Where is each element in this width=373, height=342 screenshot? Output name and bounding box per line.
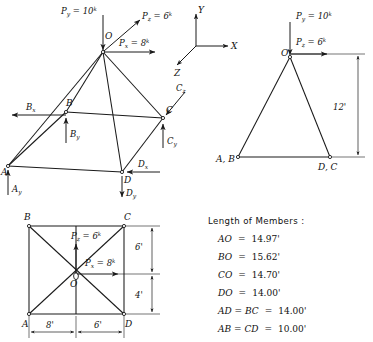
member-BC: [66, 112, 163, 118]
joint-label-A-plan: A: [21, 319, 29, 329]
plan-dim-label-8ft-horizontal: 8': [46, 320, 54, 330]
joint-D-plan: [122, 312, 125, 315]
elev-member-right: [290, 57, 330, 157]
load-label-Py-elev: Py = 10k: [295, 11, 332, 23]
plan-dim-label-6ft-horizontal: 6': [94, 320, 102, 330]
joint-label-B-plan: B: [23, 212, 31, 222]
iso-members: [8, 52, 163, 172]
joint-B-iso: [64, 110, 67, 113]
plan-view-group: B C A D O Pz = 6k Px = 8k 6' 4': [21, 212, 160, 338]
joint-label-D-plan: D: [124, 319, 132, 329]
coordinate-triad-group: Y X Z: [173, 5, 238, 78]
joint-A-plan: [27, 312, 30, 315]
axis-label-X: X: [230, 41, 238, 51]
legend-member-AD-BC: AD = BC: [217, 306, 259, 316]
elevation-view-group: O A, B D, C Py = 10k Pz = 6k 12': [215, 11, 365, 172]
joint-B-plan: [27, 224, 30, 227]
legend-row: BO=15.62': [217, 252, 280, 262]
joint-label-O-elev: O: [281, 48, 289, 58]
joint-C-plan: [122, 224, 125, 227]
joint-C-iso: [161, 116, 164, 119]
reaction-arrow-Cz: [166, 92, 185, 115]
engineering-figure-svg: O A B C D Py = 10k Pz = 6k Px = 8k: [0, 0, 373, 342]
load-label-Px-iso: Px = 8k: [118, 38, 150, 49]
member-AB: [8, 112, 66, 166]
load-label-Pz-iso: Pz = 6k: [141, 11, 173, 22]
legend-row: CO=14.70': [218, 270, 280, 280]
figure-canvas: O A B C D Py = 10k Pz = 6k Px = 8k: [0, 0, 373, 342]
joint-D-iso: [120, 170, 123, 173]
plan-dim-label-4ft-vertical: 4': [134, 290, 143, 300]
reaction-label-By: By: [69, 129, 80, 141]
axis-label-Y: Y: [198, 5, 205, 15]
legend-row: AB = CD=10.00': [217, 324, 306, 334]
reaction-label-Dy: Dy: [125, 188, 137, 200]
legend-member-BO: BO: [217, 252, 233, 262]
load-label-Py-iso: Py = 10k: [60, 6, 97, 18]
axis-label-Z: Z: [173, 68, 181, 78]
joint-label-B-iso: B: [65, 98, 73, 108]
joint-label-O-iso: O: [105, 31, 113, 41]
legend-member-CO: CO: [218, 270, 233, 280]
legend-heading: Length of Members :: [208, 216, 304, 226]
load-label-Pz-elev: Pz = 6k: [295, 37, 327, 48]
elev-dim-label-12ft: 12': [333, 102, 346, 112]
legend-row: AO=14.97': [217, 234, 280, 244]
axis-Z-arrow: [177, 46, 196, 65]
legend-member-AB-CD: AB = CD: [217, 324, 258, 334]
reaction-label-Cy: Cy: [167, 136, 178, 148]
legend-member-AO: AO: [217, 234, 232, 244]
reaction-label-Ay: Ay: [11, 184, 22, 196]
reaction-label-Dx: Dx: [137, 159, 149, 170]
legend-member-DO: DO: [217, 288, 233, 298]
joint-label-O-plan: O: [70, 279, 78, 289]
load-label-Px-plan: Px = 8k: [84, 258, 116, 269]
joint-label-D-iso: D: [123, 175, 131, 185]
joint-O-elev: [288, 55, 291, 58]
joint-label-A-iso: A: [0, 167, 8, 177]
legend-row: DO=14.00': [217, 288, 280, 298]
joint-DC-elev: [328, 155, 331, 158]
joint-label-DC-elev: D, C: [317, 162, 338, 172]
load-label-Pz-plan: Pz = 6k: [70, 231, 102, 242]
member-OA: [8, 52, 103, 166]
joint-label-AB-elev: A, B: [215, 154, 235, 164]
elev-member-left: [238, 57, 290, 157]
legend-group: Length of Members : AO=14.97' BO=15.62' …: [208, 216, 306, 334]
legend-row: AD = BC=14.00': [217, 306, 306, 316]
joint-AB-elev: [236, 155, 239, 158]
member-AD: [8, 166, 122, 172]
reaction-label-Bx: Bx: [25, 102, 36, 113]
reaction-label-Cz: Cz: [176, 83, 187, 94]
plan-dim-label-6ft-vertical: 6': [135, 242, 143, 252]
joint-label-C-plan: C: [124, 212, 131, 222]
iso-view-group: O A B C D Py = 10k Pz = 6k Px = 8k: [0, 6, 187, 200]
